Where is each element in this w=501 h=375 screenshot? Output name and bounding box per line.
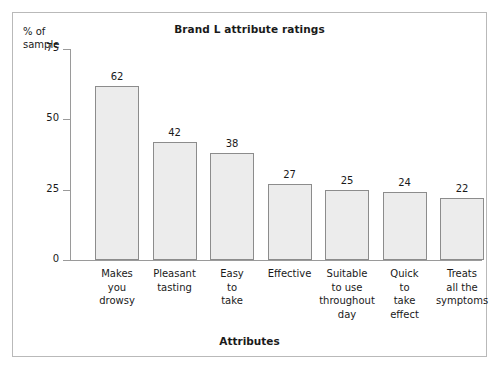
bar-value-label: 24 (383, 177, 427, 188)
y-axis-line (70, 49, 71, 261)
y-axis-tick: 75 (63, 49, 70, 50)
bar-value-label: 25 (325, 175, 369, 186)
bar[interactable] (268, 184, 312, 260)
bar-value-label: 22 (440, 183, 484, 194)
bar[interactable] (153, 142, 197, 260)
y-axis-tick-label: 75 (46, 42, 59, 53)
x-axis-tick-label: Quick to take effect (374, 267, 436, 321)
y-axis-tick: 50 (63, 119, 70, 120)
bar-value-label: 38 (210, 138, 254, 149)
x-axis-tick-label: Easy to take (201, 267, 263, 308)
y-axis-tick-label: 25 (46, 183, 59, 194)
bar-value-label: 27 (268, 169, 312, 180)
x-axis-tick-label: Makes you drowsy (86, 267, 148, 308)
y-axis-tick: 25 (63, 190, 70, 191)
plot-area: 0255075 62423827252422 Makes you drowsyP… (70, 49, 482, 273)
bar[interactable] (440, 198, 484, 260)
bar[interactable] (383, 192, 427, 260)
y-axis-tick-label: 0 (53, 253, 59, 264)
x-axis-tick-label: Treats all the symptoms (431, 267, 493, 308)
bar[interactable] (325, 190, 369, 260)
chart-title: Brand L attribute ratings (13, 23, 486, 35)
x-axis-line (70, 260, 482, 261)
bar[interactable] (210, 153, 254, 260)
y-axis-tick-label: 50 (46, 112, 59, 123)
bar-value-label: 42 (153, 127, 197, 138)
x-axis-label: Attributes (13, 335, 486, 347)
bar[interactable] (95, 86, 139, 260)
chart-frame: Brand L attribute ratings % of sample At… (12, 12, 487, 357)
x-axis-tick-label: Pleasant tasting (144, 267, 206, 294)
y-axis-tick: 0 (63, 260, 70, 261)
bar-value-label: 62 (95, 71, 139, 82)
x-axis-tick-label: Suitable to use throughout day (316, 267, 378, 321)
x-axis-tick-label: Effective (259, 267, 321, 281)
